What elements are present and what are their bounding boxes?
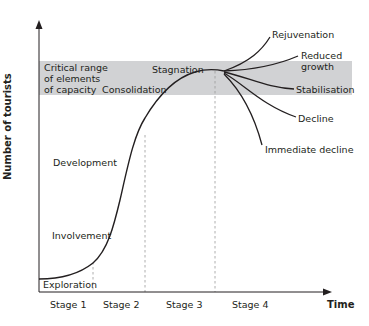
y-axis-label: Number of tourists [2, 73, 13, 180]
stage-4-label: Stage 4 [232, 299, 269, 310]
outcome-decline: Decline [298, 113, 334, 124]
phase-consolidation: Consolidation [102, 84, 167, 95]
outcome-rejuvenation: Rejuvenation [272, 29, 334, 40]
band-label-line-3: of capacity [44, 84, 96, 95]
stage-3-label: Stage 3 [166, 299, 203, 310]
y-axis-arrow-icon [36, 20, 43, 29]
band-label-line-1: Critical range [44, 62, 108, 73]
life-cycle-curve [39, 70, 224, 279]
outcome-reduced-growth-line-1: Reduced [301, 50, 342, 61]
outcome-stabilisation: Stabilisation [296, 84, 355, 95]
phase-exploration: Exploration [43, 279, 97, 290]
band-label-line-2: of elements [44, 73, 100, 84]
outcome-immediate-decline: Immediate decline [265, 144, 353, 155]
phase-stagnation: Stagnation [152, 64, 204, 75]
x-axis-arrow-icon [323, 289, 332, 296]
phase-development: Development [53, 157, 117, 168]
outcome-reduced-growth-line-2: growth [301, 61, 334, 72]
phase-involvement: Involvement [52, 230, 111, 241]
stage-2-label: Stage 2 [103, 299, 140, 310]
stage-1-label: Stage 1 [50, 299, 87, 310]
x-axis-label: Time [327, 299, 354, 310]
